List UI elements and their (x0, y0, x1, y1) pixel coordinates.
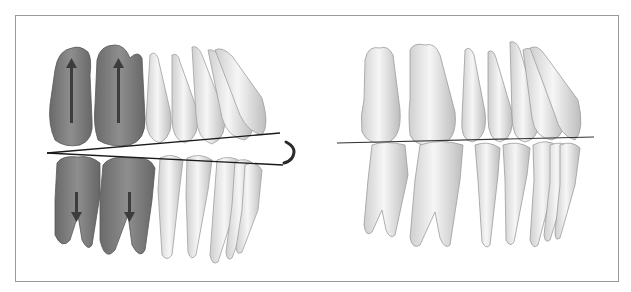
upper-teeth (361, 42, 581, 146)
rotation-arc-icon (284, 142, 294, 163)
lower-teeth (364, 142, 580, 247)
upper-molars-highlighted (50, 45, 146, 146)
dental-illustration (0, 0, 631, 292)
right-panel (337, 42, 594, 247)
left-panel (47, 45, 294, 263)
lower-molars-highlighted (55, 157, 155, 255)
lower-teeth-light (158, 155, 262, 263)
upper-teeth-light (146, 47, 266, 144)
